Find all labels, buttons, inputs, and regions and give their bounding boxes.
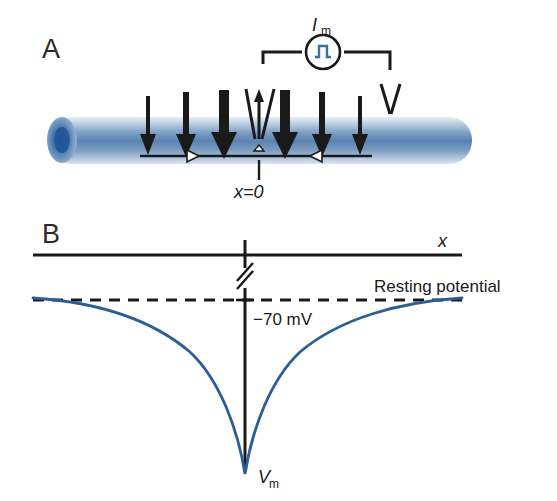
cable-lumen — [54, 127, 70, 153]
origin-label: x=0 — [233, 182, 264, 202]
panel-a-letter: A — [42, 34, 60, 64]
v-axis — [236, 240, 254, 470]
circuit-wire-right — [344, 52, 390, 70]
current-source-label: I — [312, 15, 317, 35]
injected-current-arrow-head — [254, 89, 264, 102]
neuron-cable-figure: A I m — [0, 0, 557, 501]
circuit-wire-left — [263, 52, 302, 64]
membrane-potential-curve — [33, 298, 462, 474]
current-source-label-sub: m — [321, 24, 331, 38]
resting-potential-label: Resting potential — [374, 277, 501, 296]
pulse-generator-icon[interactable] — [306, 35, 340, 69]
stimulator-circuit — [263, 35, 390, 70]
figure-canvas: A I m — [0, 0, 557, 501]
v-axis-label-sub: m — [269, 477, 279, 491]
bath-electrode-left — [381, 84, 390, 114]
bath-electrode — [381, 84, 400, 114]
x-axis-label: x — [437, 231, 448, 251]
panel-b-letter: B — [42, 219, 60, 249]
bath-electrode-right — [391, 84, 400, 114]
resting-value-label: −70 mV — [253, 310, 313, 329]
